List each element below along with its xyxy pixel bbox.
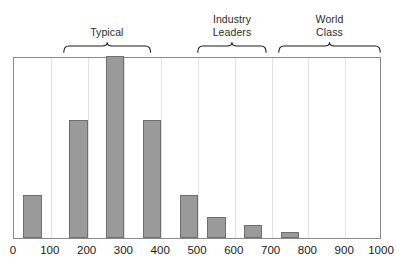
curly-brace-icon [197, 42, 267, 53]
x-tick-label: 0 [10, 243, 16, 257]
bar [207, 217, 225, 238]
histogram-figure: TypicalIndustry LeadersWorld Class 01002… [0, 0, 396, 268]
annotation-label: World Class [278, 13, 381, 38]
x-tick-label: 900 [335, 243, 354, 257]
bar [180, 195, 198, 238]
x-tick-label: 700 [261, 243, 280, 257]
plot-area [13, 57, 381, 239]
bar [106, 56, 124, 238]
bar [69, 120, 87, 238]
x-tick-label: 400 [151, 243, 170, 257]
x-tick-label: 800 [298, 243, 317, 257]
bar [244, 225, 262, 238]
x-tick-label: 300 [114, 243, 133, 257]
x-tick-label: 1000 [368, 243, 394, 257]
bar [281, 232, 299, 238]
curly-brace-icon [278, 42, 381, 53]
x-tick-label: 200 [77, 243, 96, 257]
annotation-bracket: Industry Leaders [197, 0, 267, 53]
bar [143, 120, 161, 238]
x-tick-label: 500 [187, 243, 206, 257]
x-axis: 01002003004005006007008009001000 [0, 243, 396, 263]
bar [23, 195, 41, 238]
annotation-label: Industry Leaders [197, 13, 267, 38]
annotation-label: Typical [63, 26, 151, 39]
annotation-bracket: World Class [278, 0, 381, 53]
x-tick-label: 600 [224, 243, 243, 257]
annotation-bracket: Typical [63, 0, 151, 53]
x-tick-label: 100 [40, 243, 59, 257]
bar-series [14, 58, 380, 238]
curly-brace-icon [63, 42, 151, 53]
